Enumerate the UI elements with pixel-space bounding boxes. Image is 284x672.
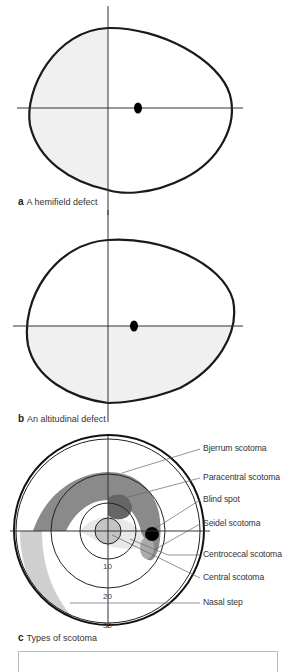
altitudinal-defect-shading [0,326,284,416]
ring-tick-10: 10 [103,562,112,571]
panel-letter: c [18,632,24,643]
caption-text: An altitudinal defect [27,414,106,424]
caption-text: Types of scotoma [27,633,98,643]
label-bjerrum-scotoma: Bjerrum scotoma [203,443,266,453]
label-centrocecal-scotoma: Centrocecal scotoma [203,549,282,559]
blind-spot [130,321,138,332]
blind-spot [145,527,159,541]
caption-text: A hemifield defect [27,197,98,207]
panel-b-caption: bAn altitudinal defect [18,413,106,424]
label-paracentral-scotoma: Paracentral scotoma [203,472,280,482]
label-nasal-step: Nasal step [203,597,243,607]
bottom-frame [18,651,278,672]
panel-letter: a [18,196,24,207]
ring-tick-30: 30 [103,621,112,630]
label-central-scotoma: Central scotoma [203,572,264,582]
blind-spot [134,103,142,114]
panel-c-caption: cTypes of scotoma [18,632,97,643]
panel-letter: b [18,413,24,424]
panel-b-altitudinal [0,210,284,422]
label-blind-spot: Blind spot [203,494,240,504]
panel-a-hemifield [0,0,243,215]
label-seidel-scotoma: Seidel scotoma [203,518,260,528]
panel-a-caption: aA hemifield defect [18,196,98,207]
ring-tick-20: 20 [103,592,112,601]
